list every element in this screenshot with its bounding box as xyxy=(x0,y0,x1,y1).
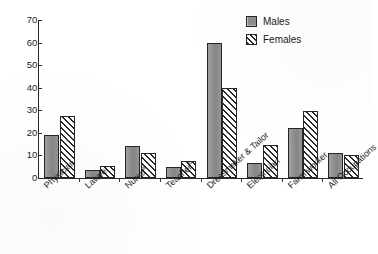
y-tick-label: 50 xyxy=(27,59,37,70)
legend-label-males: Males xyxy=(263,16,290,27)
y-tick-label: 0 xyxy=(32,172,37,183)
x-tick-mark xyxy=(119,179,120,182)
bar-group xyxy=(38,20,79,178)
x-tick-mark xyxy=(201,179,202,182)
bar-males xyxy=(207,43,222,178)
y-tick-label: 20 xyxy=(27,127,37,138)
y-tick-label: 40 xyxy=(27,82,37,93)
diagonal-hatch-swatch-icon xyxy=(246,34,257,45)
solid-gray-swatch-icon xyxy=(246,16,257,27)
legend-label-females: Females xyxy=(263,34,301,45)
y-tick-label: 70 xyxy=(27,14,37,25)
y-tick-mark xyxy=(38,178,42,179)
bar-group xyxy=(119,20,160,178)
bar-group xyxy=(79,20,120,178)
x-tick-mark xyxy=(322,179,323,182)
x-tick-mark xyxy=(160,179,161,182)
y-tick: 0 xyxy=(38,178,44,179)
y-tick-label: 30 xyxy=(27,104,37,115)
bar-group xyxy=(160,20,201,178)
x-tick-mark xyxy=(282,179,283,182)
x-tick-mark xyxy=(241,179,242,182)
y-tick-label: 60 xyxy=(27,37,37,48)
y-tick-label: 10 xyxy=(27,149,37,160)
legend-item-females: Females xyxy=(246,32,356,47)
legend-item-males: Males xyxy=(246,14,356,29)
legend: Males Females xyxy=(246,14,356,50)
x-tick-mark xyxy=(79,179,80,182)
